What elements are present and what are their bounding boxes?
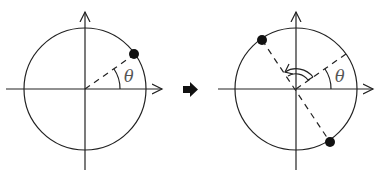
theta-label: θ [124,67,134,86]
transition-arrow-icon [183,82,198,97]
point-dot [257,35,267,45]
rotation-arc-inner [288,74,308,80]
panel-after: θ [218,12,373,170]
angle-arc [114,69,120,89]
rotation-tick [308,77,313,80]
rotation-diagram: θ θ [0,0,379,185]
theta-label: θ [335,67,345,86]
point-dot [129,49,139,59]
panel-before: θ [6,12,162,170]
point-dot [325,137,335,147]
angle-arc [325,69,331,89]
